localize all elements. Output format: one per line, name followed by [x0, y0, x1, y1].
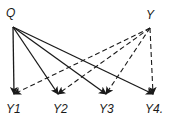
edge-q-y1	[13, 27, 14, 94]
node-label-y2: Y2	[53, 102, 68, 116]
node-label-y4: Y4.	[145, 102, 163, 116]
node-label-y: Y	[146, 8, 155, 22]
node-label-y1: Y1	[6, 102, 21, 116]
causal-diagram: Q Y Y1 Y2 Y3 Y4.	[0, 0, 169, 121]
edge-q-y3	[13, 27, 106, 94]
edge-y-y3	[106, 28, 150, 94]
edge-y-y4	[150, 28, 153, 94]
node-label-y3: Y3	[99, 102, 114, 116]
node-label-q: Q	[6, 6, 15, 20]
edge-y-y2	[58, 28, 150, 94]
edges-group	[13, 27, 153, 94]
